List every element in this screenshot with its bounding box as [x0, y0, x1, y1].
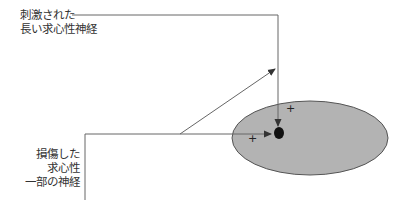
stimulated-nerve-label: 刺激された 長い求心性神経: [20, 8, 97, 36]
plus-sign-upper: +: [286, 103, 295, 114]
long-afferent-nerve-line: [72, 15, 278, 126]
stimulated-nerve-label-line-1: 刺激された: [20, 8, 97, 22]
stimulated-nerve-label-line-2: 長い求心性神経: [20, 22, 97, 36]
damaged-nerve-label-line-1: 損傷した: [10, 147, 80, 161]
plus-sign-lower: +: [248, 133, 257, 144]
damaged-nerve-label-line-3: 一部の神経: [10, 175, 80, 189]
damaged-nerve-label-line-2: 求心性: [10, 161, 80, 175]
damaged-nerve-label: 損傷した 求心性 一部の神経: [10, 147, 80, 189]
target-neuron-dot: [274, 127, 284, 139]
